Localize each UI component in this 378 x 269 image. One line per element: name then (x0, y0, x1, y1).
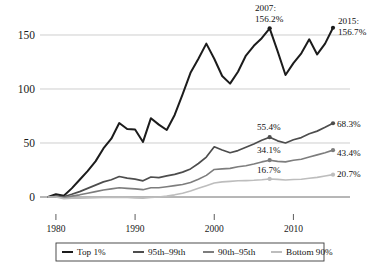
y-tick-label-150: 150 (18, 29, 36, 41)
value-annotations: 2007:156.2%2015:156.7%55.4%68.3%34.1%43.… (255, 3, 367, 179)
marker-bottom90-2015 (331, 173, 335, 177)
annotation-p90-2015: 43.4% (337, 148, 361, 158)
chart-page: 050100150 1980199020002010 2007:156.2%20… (0, 0, 378, 269)
annotation-b90-2015: 20.7% (337, 169, 361, 179)
chart-legend: Top 1%95th–99th90th–95thBottom 90% (56, 243, 333, 261)
annotation-p95-2015: 68.3% (337, 119, 361, 129)
x-tick-label-1980: 1980 (46, 224, 65, 234)
annotation-2015-year: 2015: (338, 16, 359, 26)
y-tick-label-100: 100 (18, 83, 36, 95)
marker-p90-2015 (331, 148, 335, 152)
marker-top1-2007 (268, 26, 272, 30)
y-axis-labels: 050100150 (18, 29, 36, 203)
legend-label-2[interactable]: 90th–95th (218, 247, 256, 257)
x-tick-label-2000: 2000 (205, 224, 224, 234)
series-lines (48, 28, 333, 199)
legend-label-0[interactable]: Top 1% (77, 247, 106, 257)
annotation-2015-value: 156.7% (338, 27, 367, 37)
annotation-b90-2007: 16.7% (257, 165, 281, 175)
axis-ticks (56, 214, 293, 220)
series-line-0 (48, 28, 333, 197)
line-chart: 050100150 1980199020002010 2007:156.2%20… (0, 0, 378, 269)
marker-bottom90-2007 (268, 177, 272, 181)
marker-p95-2015 (331, 121, 335, 125)
y-tick-label-50: 50 (24, 137, 36, 149)
y-tick-label-0: 0 (29, 191, 35, 203)
marker-p95-2007 (268, 135, 272, 139)
annotation-p90-2007: 34.1% (257, 145, 281, 155)
marker-top1-2015 (331, 26, 335, 30)
x-axis-labels: 1980199020002010 (46, 224, 303, 234)
annotation-2007-year: 2007: (255, 3, 276, 13)
legend-label-3[interactable]: Bottom 90% (286, 247, 333, 257)
annotation-2007-value: 156.2% (255, 14, 284, 24)
marker-p90-2007 (268, 158, 272, 162)
x-tick-label-2010: 2010 (284, 224, 303, 234)
legend-label-1[interactable]: 95th–99th (148, 247, 186, 257)
annotation-p95-2007: 55.4% (257, 122, 281, 132)
x-tick-label-1990: 1990 (126, 224, 145, 234)
